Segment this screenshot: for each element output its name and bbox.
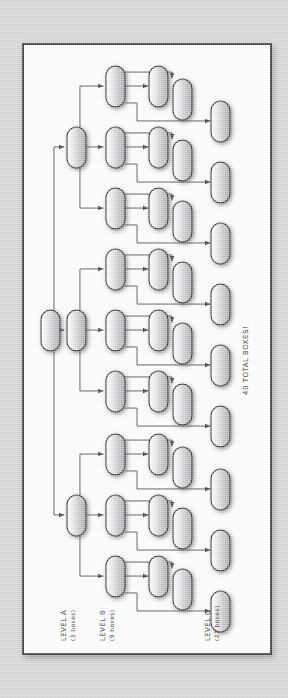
node-level-c-4[interactable] [149, 127, 168, 168]
node-level-c-24[interactable] [211, 530, 230, 571]
edge-b3-c9 [125, 225, 210, 243]
node-level-b-8[interactable] [106, 495, 125, 536]
level-c-caption-line2: (27 boxes) [213, 605, 221, 641]
edge-b2-c6 [125, 164, 210, 182]
node-level-c-19[interactable] [149, 434, 168, 475]
node-level-c-9[interactable] [211, 223, 230, 264]
node-level-b-6[interactable] [106, 371, 125, 412]
node-level-c-7[interactable] [149, 188, 168, 229]
node-level-c-23[interactable] [173, 508, 192, 549]
total-boxes-caption: 40 TOTAL BOXES! [242, 326, 250, 395]
edge-b1-c3 [125, 103, 210, 121]
edge-b8-c24 [125, 532, 210, 550]
node-level-c-5[interactable] [173, 140, 192, 181]
level-b-caption-line1: LEVEL B [99, 610, 107, 641]
node-level-c-17[interactable] [173, 384, 192, 425]
level-a-caption: LEVEL A (3 boxes) [60, 610, 76, 642]
edge-a3-b9 [80, 535, 103, 576]
edge-a2-b4 [80, 269, 103, 310]
level-c-caption: LEVEL C (27 boxes) [204, 605, 220, 641]
node-level-c-1[interactable] [149, 66, 168, 107]
node-level-c-16[interactable] [149, 371, 168, 412]
node-level-b-2[interactable] [106, 127, 125, 168]
level-c-caption-line1: LEVEL C [204, 610, 212, 641]
edge-root-a3 [54, 330, 64, 515]
edge-a3-b7 [80, 454, 103, 495]
node-level-b-9[interactable] [106, 556, 125, 597]
node-level-b-3[interactable] [106, 188, 125, 229]
node-level-a-3[interactable] [67, 495, 86, 536]
edge-b4-c12 [125, 286, 210, 304]
level-b-caption: LEVEL B (9 boxes) [99, 610, 115, 642]
tree-diagram [24, 45, 270, 653]
edge-a1-b1 [80, 86, 103, 127]
edge-a1-b3 [80, 167, 103, 208]
node-level-c-26[interactable] [173, 569, 192, 610]
node-level-c-8[interactable] [173, 201, 192, 242]
node-root[interactable] [41, 310, 60, 351]
scanned-page: LEVEL A (3 boxes) LEVEL B (9 boxes) LEVE… [0, 0, 288, 698]
level-a-caption-line2: (3 boxes) [69, 610, 77, 642]
node-level-c-3[interactable] [211, 101, 230, 142]
node-level-a-1[interactable] [67, 127, 86, 168]
node-level-c-14[interactable] [173, 323, 192, 364]
node-level-c-6[interactable] [211, 162, 230, 203]
node-level-b-4[interactable] [106, 249, 125, 290]
level-a-caption-line1: LEVEL A [60, 610, 68, 641]
edge-b7-c21 [125, 471, 210, 489]
node-level-c-2[interactable] [173, 79, 192, 120]
node-level-b-7[interactable] [106, 434, 125, 475]
node-level-b-1[interactable] [106, 66, 125, 107]
node-level-c-22[interactable] [149, 495, 168, 536]
node-level-c-25[interactable] [149, 556, 168, 597]
edge-root-a1 [54, 147, 64, 330]
node-level-c-11[interactable] [173, 262, 192, 303]
edge-b9-c27 [125, 593, 210, 611]
edge-b5-c15 [125, 347, 210, 365]
edge-a2-b6 [80, 350, 103, 391]
node-level-c-15[interactable] [211, 345, 230, 386]
node-level-c-13[interactable] [149, 310, 168, 351]
node-level-b-5[interactable] [106, 310, 125, 351]
node-level-c-21[interactable] [211, 469, 230, 510]
node-layer [41, 66, 230, 632]
diagram-sheet: LEVEL A (3 boxes) LEVEL B (9 boxes) LEVE… [22, 43, 272, 655]
node-level-a-2[interactable] [67, 310, 86, 351]
edge-b6-c18 [125, 408, 210, 426]
node-level-c-18[interactable] [211, 406, 230, 447]
node-level-c-10[interactable] [149, 249, 168, 290]
level-b-caption-line2: (9 boxes) [108, 610, 116, 642]
node-level-c-12[interactable] [211, 284, 230, 325]
node-level-c-20[interactable] [173, 447, 192, 488]
